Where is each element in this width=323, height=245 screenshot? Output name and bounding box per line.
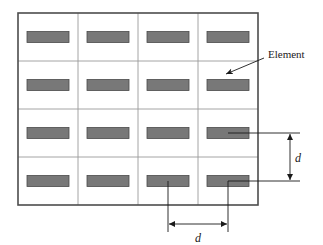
dimension-label-horizontal-d: d bbox=[195, 231, 202, 245]
figure-container: d d Element bbox=[0, 0, 323, 245]
element-callout-label: Element bbox=[268, 48, 305, 60]
array-element-r4-c1 bbox=[27, 176, 69, 187]
array-element-r2-c2 bbox=[87, 80, 129, 91]
array-element-r3-c1 bbox=[27, 128, 69, 139]
array-element-r3-c2 bbox=[87, 128, 129, 139]
array-layout-diagram: d d Element bbox=[0, 0, 323, 245]
array-element-r4-c2 bbox=[87, 176, 129, 187]
array-element-r1-c2 bbox=[87, 32, 129, 43]
dimension-label-vertical-d: d bbox=[295, 151, 302, 165]
array-element-r1-c3 bbox=[147, 32, 189, 43]
array-element-r1-c4 bbox=[207, 32, 249, 43]
array-element-r1-c1 bbox=[27, 32, 69, 43]
array-element-r2-c4 bbox=[207, 80, 249, 91]
array-element-r2-c3 bbox=[147, 80, 189, 91]
array-element-r2-c1 bbox=[27, 80, 69, 91]
array-element-r3-c3 bbox=[147, 128, 189, 139]
